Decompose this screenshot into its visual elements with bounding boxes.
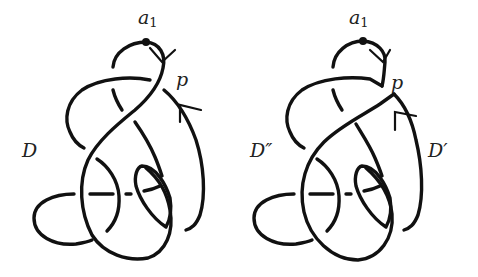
knot-diagrams-svg	[0, 0, 478, 277]
basepoint-letter: a	[138, 6, 149, 28]
diagram-label-D-double-prime: D″	[250, 141, 272, 160]
basepoint-dot-a1	[142, 38, 150, 46]
knot-strand-top-arc	[82, 42, 171, 259]
diagram-label-D-prime: D′	[428, 141, 448, 160]
orientation-arrow-top	[370, 50, 390, 62]
basepoint-dot-a1	[359, 37, 367, 45]
knot-strand-upper-left-lobe	[67, 78, 150, 148]
knot-strand-horizontal-dash-3	[364, 186, 380, 191]
basepoint-label-a1: a1	[138, 8, 158, 29]
crossing-label-p-right: p	[391, 73, 403, 92]
crossing-label-p: p	[176, 70, 188, 89]
knot-strand-under-a	[113, 90, 122, 110]
basepoint-subscript: 1	[360, 15, 368, 30]
basepoint-letter: a	[349, 6, 360, 28]
basepoint-label-a1-right: a1	[349, 8, 369, 29]
knot-strand-horizontal-dash-3	[144, 186, 160, 191]
diagram-label-D: D	[22, 141, 37, 160]
basepoint-subscript: 1	[149, 15, 157, 30]
knot-diagram-figure: a1 p D a1 p D″ D′	[0, 0, 478, 277]
knot-strand-under-a	[333, 90, 342, 110]
